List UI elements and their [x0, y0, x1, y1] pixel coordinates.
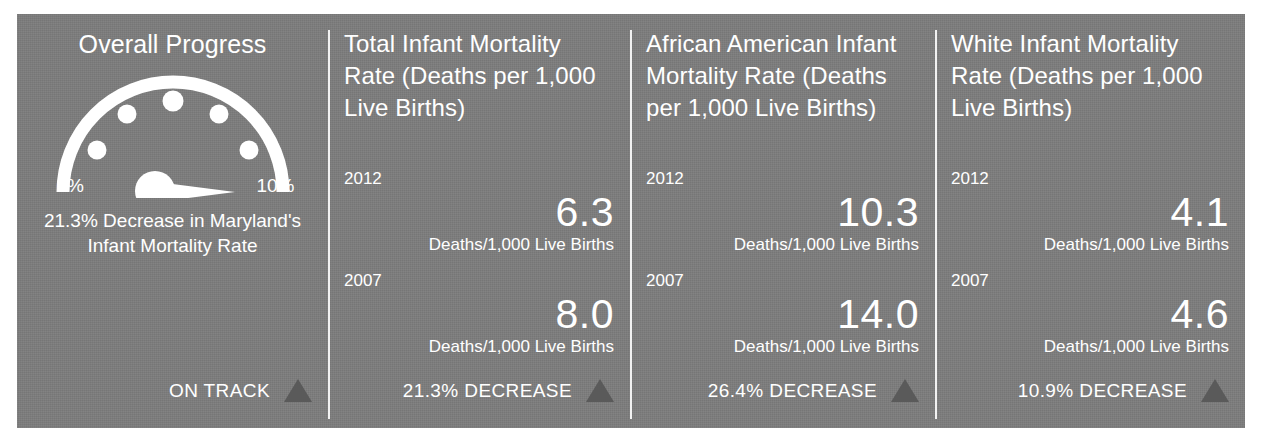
- status-row-overall-progress: ON TRACK: [169, 379, 312, 402]
- status-row-african-american: 26.4% DECREASE: [708, 379, 919, 402]
- gauge-min-label: 0%: [57, 174, 84, 198]
- metric-value: 6.3: [344, 190, 614, 234]
- status-row-total: 21.3% DECREASE: [403, 379, 614, 402]
- gauge-max-label: 10%: [256, 174, 294, 198]
- metric-row: 2007 8.0 Deaths/1,000 Live Births: [344, 270, 614, 358]
- metric-year: 2007: [344, 270, 614, 292]
- metric-year: 2007: [646, 270, 919, 292]
- metric-row: 2012 10.3 Deaths/1,000 Live Births: [646, 168, 919, 256]
- metric-value: 14.0: [646, 292, 919, 336]
- metric-unit: Deaths/1,000 Live Births: [951, 336, 1229, 358]
- metric-year: 2012: [951, 168, 1229, 190]
- panel-title-white: White Infant Mortality Rate (Deaths per …: [951, 28, 1229, 124]
- metric-row: 2007 4.6 Deaths/1,000 Live Births: [951, 270, 1229, 358]
- metric-unit: Deaths/1,000 Live Births: [344, 234, 614, 256]
- metric-row: 2007 14.0 Deaths/1,000 Live Births: [646, 270, 919, 358]
- status-row-white: 10.9% DECREASE: [1018, 379, 1229, 402]
- status-badge: 10.9% DECREASE: [1018, 380, 1187, 402]
- metric-row: 2012 4.1 Deaths/1,000 Live Births: [951, 168, 1229, 256]
- metric-unit: Deaths/1,000 Live Births: [951, 234, 1229, 256]
- metric-value: 4.1: [951, 190, 1229, 234]
- up-triangle-icon: [891, 379, 919, 402]
- scorecard-dashboard: Overall Progress 0% 10: [17, 14, 1245, 428]
- metric-unit: Deaths/1,000 Live Births: [646, 336, 919, 358]
- panel-title-overall-progress: Overall Progress: [33, 28, 312, 60]
- metric-year: 2012: [344, 168, 614, 190]
- metrics-white: 2012 4.1 Deaths/1,000 Live Births 2007 4…: [951, 168, 1229, 358]
- panel-total-infant-mortality: Total Infant Mortality Rate (Deaths per …: [328, 14, 630, 428]
- metrics-african-american: 2012 10.3 Deaths/1,000 Live Births 2007 …: [646, 168, 919, 358]
- status-badge: 21.3% DECREASE: [403, 380, 572, 402]
- metric-unit: Deaths/1,000 Live Births: [344, 336, 614, 358]
- panel-overall-progress: Overall Progress 0% 10: [17, 14, 328, 428]
- gauge-caption: 21.3% Decrease in Maryland's Infant Mort…: [38, 208, 308, 258]
- metric-value: 8.0: [344, 292, 614, 336]
- gauge-scale-labels: 0% 10%: [47, 174, 299, 198]
- metric-unit: Deaths/1,000 Live Births: [646, 234, 919, 256]
- status-badge: ON TRACK: [169, 380, 270, 402]
- metric-value: 10.3: [646, 190, 919, 234]
- panel-white-infant-mortality: White Infant Mortality Rate (Deaths per …: [935, 14, 1245, 428]
- panel-title-african-american: African American Infant Mortality Rate (…: [646, 28, 919, 124]
- status-badge: 26.4% DECREASE: [708, 380, 877, 402]
- up-triangle-icon: [586, 379, 614, 402]
- metric-year: 2012: [646, 168, 919, 190]
- panel-african-american-infant-mortality: African American Infant Mortality Rate (…: [630, 14, 935, 428]
- metric-value: 4.6: [951, 292, 1229, 336]
- panel-title-total: Total Infant Mortality Rate (Deaths per …: [344, 28, 614, 124]
- panel-row: Overall Progress 0% 10: [17, 14, 1245, 428]
- up-triangle-icon: [1201, 379, 1229, 402]
- metrics-total: 2012 6.3 Deaths/1,000 Live Births 2007 8…: [344, 168, 614, 358]
- metric-year: 2007: [951, 270, 1229, 292]
- up-triangle-icon: [284, 379, 312, 402]
- metric-row: 2012 6.3 Deaths/1,000 Live Births: [344, 168, 614, 256]
